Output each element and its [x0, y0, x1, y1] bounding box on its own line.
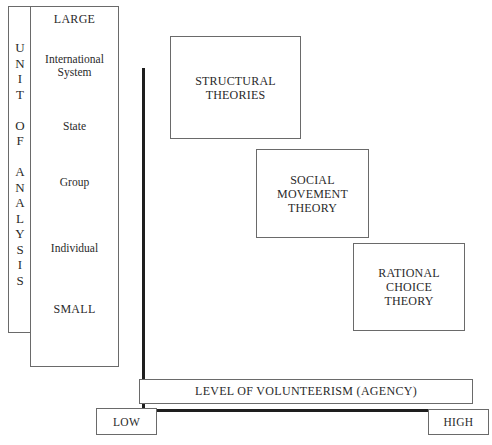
y-title-letter: T — [16, 87, 24, 103]
scale-level-line: International — [31, 53, 118, 66]
scale-small-label: SMALL — [31, 303, 118, 316]
high-label: HIGH — [444, 416, 474, 428]
y-title-letter: U — [15, 40, 24, 56]
structural-theories-box: STRUCTURAL THEORIES — [170, 36, 301, 139]
vertical-axis-line — [142, 68, 145, 412]
y-title-letter: S — [16, 242, 23, 258]
social-movement-theory-label: SOCIAL MOVEMENT THEORY — [277, 173, 348, 215]
level-of-volunteerism-label: LEVEL OF VOLUNTEERISM (AGENCY) — [195, 384, 417, 399]
level-of-volunteerism-label-box: LEVEL OF VOLUNTEERISM (AGENCY) — [139, 379, 473, 404]
scale-level-line: System — [31, 66, 118, 79]
y-title-letter: S — [16, 273, 23, 289]
theory-label-line: STRUCTURAL — [195, 74, 276, 88]
y-title-letter: A — [15, 195, 24, 211]
scale-level-group: Group — [31, 176, 118, 189]
scale-level-state: State — [31, 120, 118, 133]
rational-choice-theory-label: RATIONAL CHOICE THEORY — [378, 266, 440, 308]
social-movement-theory-box: SOCIAL MOVEMENT THEORY — [256, 149, 369, 238]
low-label: LOW — [113, 416, 140, 428]
theory-label-line: CHOICE — [378, 280, 440, 294]
high-label-box: HIGH — [428, 409, 489, 435]
unit-of-analysis-label: U N I T O F A N A L Y S I S — [9, 40, 31, 288]
scale-large-label: LARGE — [31, 13, 118, 26]
rational-choice-theory-box: RATIONAL CHOICE THEORY — [353, 243, 465, 331]
scale-level-international-system: International System — [31, 53, 118, 79]
y-title-letter: N — [15, 56, 24, 72]
theory-label-line: RATIONAL — [378, 266, 440, 280]
structural-theories-label: STRUCTURAL THEORIES — [195, 74, 276, 102]
y-title-letter: I — [18, 71, 22, 87]
y-title-letter: A — [15, 164, 24, 180]
unit-of-analysis-scale: LARGE International System State Group I… — [30, 6, 119, 367]
theory-label-line: THEORIES — [195, 88, 276, 102]
unit-of-analysis-label-box: U N I T O F A N A L Y S I S — [8, 6, 32, 333]
theory-label-line: THEORY — [277, 201, 348, 215]
y-title-letter: Y — [15, 226, 24, 242]
theory-label-line: SOCIAL — [277, 173, 348, 187]
y-title-letter: I — [18, 257, 22, 273]
y-title-letter: O — [15, 118, 24, 134]
theory-label-line: THEORY — [378, 294, 440, 308]
y-title-letter: F — [16, 133, 23, 149]
theory-label-line: MOVEMENT — [277, 187, 348, 201]
horizontal-axis-line — [142, 409, 460, 412]
y-title-letter: L — [16, 211, 24, 227]
scale-level-individual: Individual — [31, 242, 118, 255]
low-label-box: LOW — [96, 408, 157, 435]
y-title-letter: N — [15, 180, 24, 196]
